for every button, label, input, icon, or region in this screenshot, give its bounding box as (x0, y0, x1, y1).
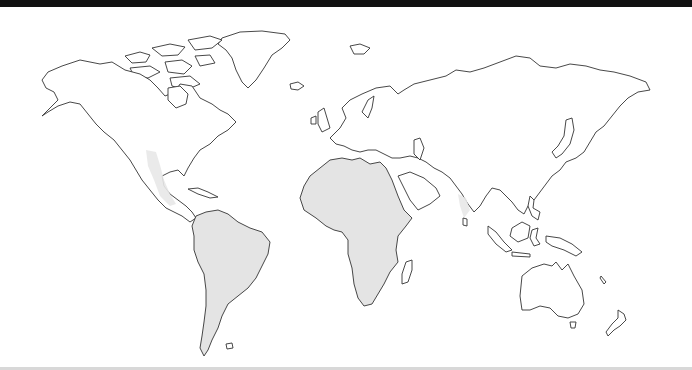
borneo (510, 222, 530, 242)
madagascar (402, 260, 412, 284)
greenland (218, 31, 290, 88)
sulawesi (530, 228, 540, 246)
australia (520, 262, 584, 318)
sumatra (488, 226, 512, 252)
uk (311, 108, 330, 132)
top-border (0, 0, 692, 7)
north-america (42, 60, 236, 222)
cuba (188, 188, 218, 198)
philippines (528, 196, 540, 220)
java (512, 252, 530, 257)
new-caledonia (600, 276, 606, 284)
sri-lanka (463, 218, 467, 226)
falklands (226, 343, 233, 349)
south-america (192, 210, 270, 356)
tasmania (570, 322, 576, 328)
svalbard (350, 44, 370, 54)
africa (300, 158, 412, 306)
iceland (290, 82, 304, 90)
new-zealand (606, 310, 626, 336)
world-map (0, 7, 692, 367)
new-guinea (546, 236, 582, 256)
arabia (398, 172, 440, 210)
